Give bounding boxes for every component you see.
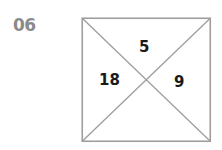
problem-number-label: 06: [13, 15, 36, 35]
right-quadrant-value: 9: [174, 74, 184, 90]
square-diagram: 5 18 9: [81, 17, 212, 143]
figure-canvas: 06 5 18 9: [0, 0, 222, 150]
left-quadrant-value: 18: [99, 72, 120, 88]
top-quadrant-value: 5: [139, 39, 149, 55]
